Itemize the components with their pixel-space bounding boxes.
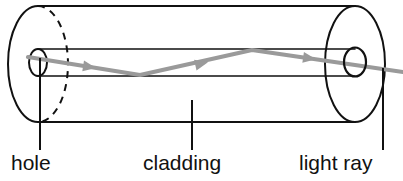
optical-fibre-diagram: hole cladding light ray — [0, 0, 403, 181]
hole-left-opening-ellipse — [29, 49, 47, 76]
leader-lines — [40, 58, 383, 150]
label-hole: hole — [11, 152, 51, 173]
label-cladding: cladding — [143, 152, 221, 173]
label-light-ray: light ray — [299, 152, 373, 173]
